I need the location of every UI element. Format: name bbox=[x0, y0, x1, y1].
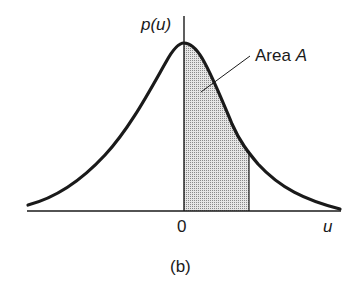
origin-tick-text: 0 bbox=[177, 217, 186, 236]
figure-caption-text: (b) bbox=[170, 257, 191, 276]
density-plot bbox=[0, 0, 357, 291]
y-axis-label: p(u) bbox=[141, 16, 171, 33]
shaded-area-a bbox=[184, 43, 249, 211]
y-axis-label-text: p(u) bbox=[141, 15, 171, 34]
area-label-word: Area bbox=[255, 46, 291, 65]
x-axis-label: u bbox=[323, 218, 332, 235]
x-axis-label-text: u bbox=[323, 217, 332, 236]
figure-caption: (b) bbox=[170, 258, 191, 275]
area-label: Area A bbox=[255, 47, 307, 64]
origin-tick-label: 0 bbox=[177, 218, 186, 235]
area-label-symbol: A bbox=[296, 46, 307, 65]
